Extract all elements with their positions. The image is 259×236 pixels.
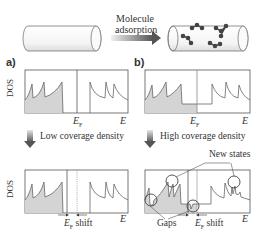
panel-b-top-dos-plot [145,70,250,113]
gaps-label: Gaps [157,219,177,229]
low-coverage-label: Low coverage density [40,132,124,142]
panel-b-top-ef-label: EF [190,116,199,128]
panel-a-bottom-dos-plot [25,170,128,217]
pristine-nanotube-icon [23,26,101,51]
high-coverage-label: High coverage density [160,132,245,142]
panel-b-label: b) [134,56,144,68]
panel-a-label: a) [6,56,16,68]
new-states-label: New states [209,150,250,160]
panel-a-top-dos-plot [25,70,128,113]
panel-a-top-ylabel: DOS [6,79,15,97]
functionalized-nanotube-icon [168,23,248,51]
panel-a-ef-shift-label: EF shift [64,219,92,230]
panel-b-bottom-e-label: E [242,214,248,224]
panel-a-top-e-label: E [120,116,126,126]
panel-a-bottom-ylabel: DOS [6,180,15,198]
panel-b-ef-shift-label: EF shift [195,219,223,230]
panel-b-top-e-label: E [242,116,248,126]
down-arrow-high-icon [144,130,156,148]
adsorption-label-line2: adsorption [115,24,155,35]
panel-a-bottom-e-label: E [120,214,126,224]
panel-b-bottom-dos-plot [145,163,250,219]
diagram-canvas [0,0,259,236]
panel-a-top-ef-label: EF [73,116,82,128]
down-arrow-low-icon [24,130,36,148]
adsorption-label-line1: Molecule [115,13,155,24]
adsorption-label: Molecule adsorption [115,13,155,35]
